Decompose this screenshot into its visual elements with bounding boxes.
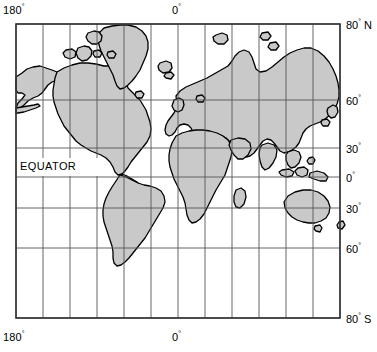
land-philippines — [307, 157, 315, 164]
landmasses — [16, 25, 345, 266]
latitude-value: 30 — [346, 143, 358, 155]
land-tasmania — [314, 225, 322, 232]
land-japan-south — [321, 119, 330, 126]
equator-annotation: EQUATOR — [20, 160, 76, 172]
latitude-label-2: 30° — [346, 142, 361, 155]
degree-symbol: ° — [358, 242, 361, 249]
latitude-value: 30 — [346, 203, 358, 215]
land-australia — [284, 190, 330, 223]
latitude-value: 80 — [346, 19, 358, 31]
land-new-zealand — [337, 221, 345, 229]
longitude-label-top-left: 180° — [3, 3, 25, 16]
latitude-value: 60 — [346, 243, 358, 255]
degree-symbol: ° — [358, 202, 361, 209]
hemisphere-suffix: N — [361, 19, 372, 31]
land-indochina — [286, 150, 301, 168]
land-arctic-islet-b — [107, 51, 116, 58]
land-iceland — [158, 61, 172, 73]
map-canvas — [0, 0, 377, 352]
longitude-label-bottom-center: 0° — [172, 330, 181, 343]
land-novaya-zemlya — [260, 32, 271, 40]
land-baltic-islet — [196, 95, 205, 102]
longitude-label-bottom-left: 180° — [3, 330, 25, 343]
land-victoria-island — [63, 49, 76, 59]
world-map-figure: 180° 0° 180° 0° 80° N60°30°0°30°60°80° S… — [0, 0, 377, 352]
latitude-label-4: 30° — [346, 202, 361, 215]
land-newfoundland — [135, 91, 144, 98]
degree-symbol: ° — [352, 171, 355, 178]
longitude-label-top-center: 0° — [172, 3, 181, 16]
latitude-label-0: 80° N — [346, 18, 372, 31]
land-sumatra-java — [279, 169, 294, 177]
land-iceland-islet — [164, 72, 174, 79]
latitude-label-3: 0° — [346, 171, 355, 184]
land-ellesmere-island — [86, 31, 102, 44]
hemisphere-suffix: S — [361, 313, 371, 325]
latitude-value: 80 — [346, 313, 358, 325]
latitude-label-1: 60° — [346, 94, 361, 107]
land-new-guinea — [309, 171, 328, 181]
land-severnaya-zemlya — [268, 42, 279, 50]
latitude-label-5: 60° — [346, 242, 361, 255]
land-madagascar — [234, 188, 246, 208]
land-svalbard — [213, 33, 228, 44]
land-india — [259, 143, 277, 170]
degree-symbol: ° — [358, 94, 361, 101]
latitude-value: 60 — [346, 95, 358, 107]
latitude-label-6: 80° S — [346, 312, 371, 325]
degree-symbol: ° — [358, 142, 361, 149]
land-south-america — [103, 175, 165, 266]
land-baffin-island — [76, 46, 92, 61]
land-arctic-islet-a — [93, 50, 102, 57]
land-japan — [327, 105, 338, 118]
land-borneo — [295, 167, 308, 177]
